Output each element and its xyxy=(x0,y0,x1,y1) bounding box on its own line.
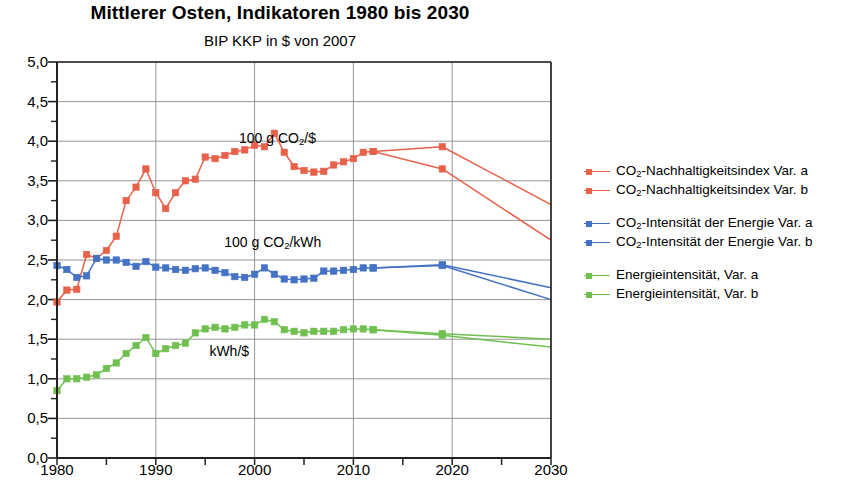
legend-swatch xyxy=(584,166,610,178)
chart-legend: CO2-Nachhaltigkeitsindex Var. aCO2-Nachh… xyxy=(584,162,842,318)
legend-item-energieintensitaet-var-a[interactable]: Energieintensität, Var. a xyxy=(584,266,842,285)
annotation-kwh-per-dollar: kWh/$ xyxy=(209,343,249,359)
chart-figure: Mittlerer Osten, Indikatoren 1980 bis 20… xyxy=(0,0,844,484)
y-tick-label: 1,5 xyxy=(8,330,48,347)
y-tick-label: 2,0 xyxy=(8,291,48,308)
series-layer xyxy=(54,130,551,394)
legend-label: Energieintensität, Var. b xyxy=(616,287,758,302)
y-tick-label: 2,5 xyxy=(8,251,48,268)
y-tick-label: 4,0 xyxy=(8,132,48,149)
legend-swatch xyxy=(584,218,610,230)
y-tick-label: 0,5 xyxy=(8,409,48,426)
legend-item-co2-nachhaltigkeitsindex-var-b[interactable]: CO2-Nachhaltigkeitsindex Var. b xyxy=(584,181,842,200)
y-tick-label: 4,5 xyxy=(8,93,48,110)
gridlines xyxy=(57,62,551,458)
annotation-co2-per-kwh: 100 g CO2/kWh xyxy=(224,234,321,251)
x-tick-label: 1990 xyxy=(126,461,186,478)
annotation-co2-per-dollar: 100 g CO2/$ xyxy=(239,130,316,147)
legend-label: CO2-Nachhaltigkeitsindex Var. b xyxy=(616,183,808,199)
legend-item-co2-intensitaet-var-b[interactable]: CO2-Intensität der Energie Var. b xyxy=(584,233,842,252)
legend-swatch xyxy=(584,289,610,301)
legend-item-energieintensitaet-var-b[interactable]: Energieintensität, Var. b xyxy=(584,285,842,304)
legend-swatch xyxy=(584,270,610,282)
x-tick-label: 2010 xyxy=(323,461,383,478)
y-tick-label: 3,0 xyxy=(8,211,48,228)
legend-item-co2-nachhaltigkeitsindex-var-a[interactable]: CO2-Nachhaltigkeitsindex Var. a xyxy=(584,162,842,181)
legend-label: CO2-Intensität der Energie Var. a xyxy=(616,216,812,232)
legend-label: CO2-Intensität der Energie Var. b xyxy=(616,235,812,251)
legend-swatch xyxy=(584,185,610,197)
legend-swatch xyxy=(584,237,610,249)
legend-group: Energieintensität, Var. aEnergieintensit… xyxy=(584,266,842,304)
x-tick-label: 2020 xyxy=(422,461,482,478)
legend-group: CO2-Intensität der Energie Var. aCO2-Int… xyxy=(584,214,842,252)
x-tick-label: 1980 xyxy=(27,461,87,478)
legend-label: Energieintensität, Var. a xyxy=(616,268,758,283)
legend-group: CO2-Nachhaltigkeitsindex Var. aCO2-Nachh… xyxy=(584,162,842,200)
legend-item-co2-intensitaet-var-a[interactable]: CO2-Intensität der Energie Var. a xyxy=(584,214,842,233)
x-tick-label: 2000 xyxy=(225,461,285,478)
legend-label: CO2-Nachhaltigkeitsindex Var. a xyxy=(616,164,808,180)
y-tick-label: 5,0 xyxy=(8,53,48,70)
y-tick-label: 3,5 xyxy=(8,172,48,189)
y-tick-label: 1,0 xyxy=(8,370,48,387)
x-tick-label: 2030 xyxy=(521,461,581,478)
